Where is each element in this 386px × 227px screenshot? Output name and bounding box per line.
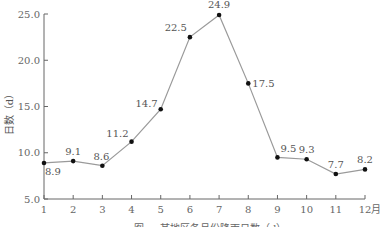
x-tick-label: 8	[245, 204, 251, 215]
x-tick-label: 4	[128, 204, 134, 215]
x-axis-ticks: 123456789101112	[41, 195, 372, 215]
x-tick-label: 10	[300, 204, 313, 215]
data-point	[71, 159, 76, 164]
data-point	[188, 35, 193, 40]
y-tick-label: 20.0	[18, 55, 40, 66]
x-tick-label: 7	[216, 204, 222, 215]
data-label: 17.5	[252, 78, 274, 89]
data-point	[217, 13, 222, 18]
data-label: 22.5	[165, 22, 187, 33]
data-point	[100, 163, 105, 168]
line-chart: 5.010.015.020.025.0 123456789101112 8.99…	[0, 0, 386, 227]
data-point	[158, 107, 163, 112]
x-axis-unit: 月	[371, 204, 381, 215]
data-label: 9.1	[65, 146, 81, 157]
x-tick-label: 11	[329, 204, 342, 215]
data-point	[129, 139, 134, 144]
y-axis-label: 日数（d）	[3, 89, 15, 135]
y-axis-ticks: 5.010.015.020.025.0	[18, 9, 48, 205]
data-line	[44, 15, 365, 174]
data-label: 9.3	[299, 144, 315, 155]
data-label: 8.9	[45, 166, 61, 177]
data-point	[363, 167, 368, 172]
data-label: 14.7	[135, 98, 157, 109]
x-tick-label: 2	[70, 204, 76, 215]
y-tick-label: 25.0	[18, 9, 40, 20]
y-tick-label: 15.0	[18, 101, 40, 112]
data-label: 7.7	[328, 159, 344, 170]
axes	[44, 14, 365, 199]
data-label: 8.2	[357, 154, 373, 165]
x-tick-label: 12	[359, 204, 372, 215]
x-tick-label: 5	[158, 204, 164, 215]
data-points	[42, 13, 368, 177]
data-label: 8.6	[93, 151, 109, 162]
x-tick-label: 6	[187, 204, 193, 215]
x-tick-label: 3	[99, 204, 105, 215]
x-tick-label: 1	[41, 204, 47, 215]
data-point	[42, 161, 47, 166]
data-point	[334, 172, 339, 177]
data-label: 11.2	[106, 128, 128, 139]
data-label: 24.9	[208, 0, 230, 10]
y-tick-label: 5.0	[24, 194, 40, 205]
data-point	[304, 157, 309, 162]
data-labels: 8.99.18.611.214.722.524.917.59.59.37.78.…	[45, 0, 373, 177]
x-tick-label: 9	[274, 204, 280, 215]
data-label: 9.5	[280, 143, 296, 154]
y-tick-label: 10.0	[18, 147, 40, 158]
data-point	[246, 81, 251, 86]
data-point	[275, 155, 280, 160]
figure-caption: 图 — 某地区各月份降雨日数（d）	[134, 222, 287, 227]
